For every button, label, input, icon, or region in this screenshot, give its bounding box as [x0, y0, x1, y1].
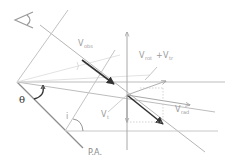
projection-line-mid: [17, 75, 150, 82]
velocity-geometry-diagram: V obs V rot + V tr V rad V t θ i P.A.: [0, 0, 228, 164]
disc-plane-line: [17, 82, 215, 112]
theta-arc: [34, 87, 43, 99]
svg-text:rad: rad: [181, 109, 189, 115]
sky-plane-line: [17, 10, 68, 82]
label-v-rot-plus-v-tr: V rot + V tr: [139, 51, 174, 61]
v-rot-tr-leader: [145, 67, 157, 80]
inclination-arc: [73, 119, 83, 131]
projection-line-upper: [17, 55, 120, 82]
position-angle-line: [17, 82, 83, 148]
svg-text:obs: obs: [84, 43, 93, 49]
svg-text:t: t: [107, 114, 109, 120]
label-v-t: V t: [101, 110, 109, 120]
svg-text:+: +: [156, 51, 163, 60]
line-of-sight: [40, 25, 205, 152]
label-inclination: i: [66, 112, 68, 121]
svg-text:tr: tr: [169, 55, 174, 61]
svg-text:rot: rot: [145, 55, 152, 61]
v-obs-arrow: [82, 60, 114, 84]
label-v-obs: V obs: [78, 39, 93, 49]
v-obs-projected-arrow: [127, 95, 163, 124]
label-theta: θ: [19, 94, 25, 105]
label-position-angle: P.A.: [88, 148, 102, 157]
label-v-rad: V rad: [175, 105, 189, 115]
eye-icon: [15, 12, 33, 28]
